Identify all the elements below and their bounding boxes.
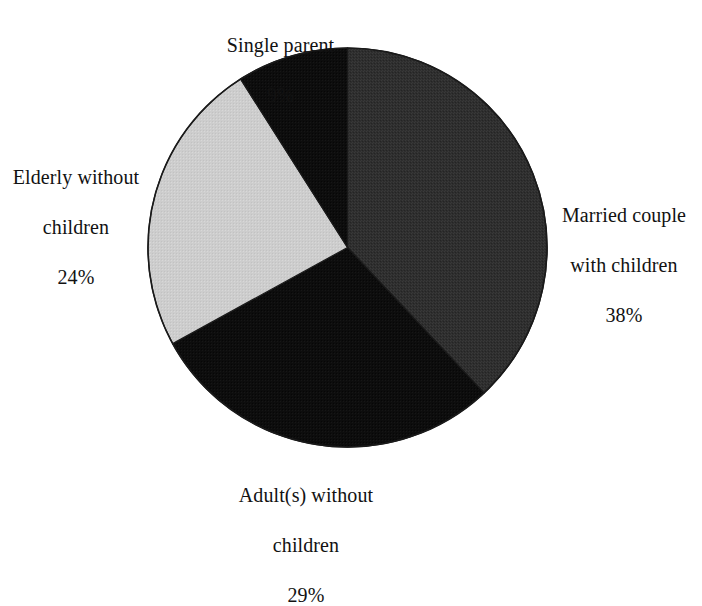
- pie-label-married-percent: 38%: [548, 303, 700, 328]
- pie-label-adults-line2: children: [208, 533, 404, 558]
- pie-label-married-with-children: Married couple with children 38%: [548, 178, 700, 353]
- pie-label-adults-percent: 29%: [208, 583, 404, 606]
- pie-label-single-parent-percent: 9%: [178, 83, 383, 108]
- pie-label-single-parent-line1: Single parent: [178, 33, 383, 58]
- pie-label-married-line1: Married couple: [548, 203, 700, 228]
- pie-label-elderly-percent: 24%: [2, 265, 150, 290]
- pie-label-elderly-line1: Elderly without: [2, 165, 150, 190]
- pie-label-adults-line1: Adult(s) without: [208, 483, 404, 508]
- pie-label-single-parent: Single parent 9%: [178, 8, 383, 133]
- pie-label-married-line2: with children: [548, 253, 700, 278]
- pie-label-adults-without-children: Adult(s) without children 29%: [208, 458, 404, 606]
- pie-label-elderly-without-children: Elderly without children 24%: [2, 140, 150, 315]
- pie-label-elderly-line2: children: [2, 215, 150, 240]
